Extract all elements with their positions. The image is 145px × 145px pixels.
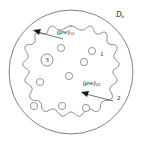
region-three-label: 3 (41, 54, 53, 66)
region-one-label: 1 (100, 51, 104, 58)
bubble (80, 58, 87, 65)
bubble (36, 78, 43, 85)
domain-subscript: b (121, 14, 124, 19)
bubble (57, 44, 64, 51)
flux-23-base: (ρw) (83, 79, 96, 87)
flux-12-base: (ρw) (57, 28, 70, 36)
flux-12-subscript: 12 (70, 31, 74, 36)
bubble (30, 102, 37, 109)
region-two-label: 2 (117, 95, 121, 102)
flux-23-label: (ρw)23 (83, 80, 100, 88)
flux-12-arrowhead (33, 29, 41, 35)
diagram-canvas (0, 0, 145, 145)
figure-root: Db (ρw)12 (ρw)23 3 1 2 (0, 0, 145, 145)
flux-23-subscript: 23 (96, 82, 100, 87)
domain-label: Db (116, 11, 124, 19)
flux-12-label: (ρw)12 (57, 29, 74, 37)
flux-23-leader (86, 94, 113, 101)
bubble (58, 102, 65, 109)
wavy-core-boundary (23, 26, 119, 116)
flux-23-arrowhead (81, 91, 89, 97)
bubble (88, 47, 95, 54)
bubble (82, 104, 89, 111)
bubble (65, 72, 72, 79)
